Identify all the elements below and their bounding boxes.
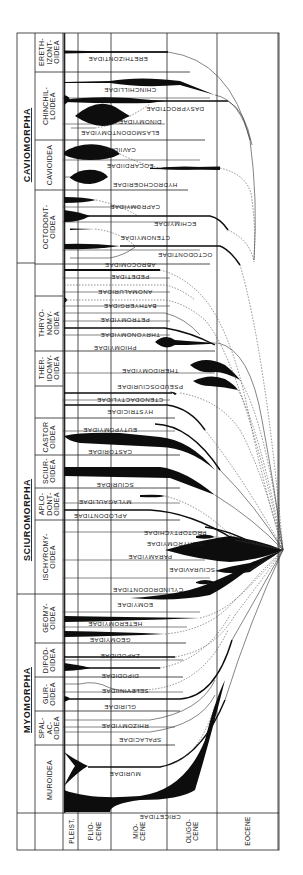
superfamily-label: CAVIOIDEA — [46, 145, 53, 185]
superfamily-label: OIDEA — [53, 492, 60, 515]
superfamily-label: CHINCHIL- — [42, 87, 49, 125]
family-label-seleviniidae: SELEVINIIDAE — [101, 688, 148, 695]
superfamily-label: THRYO- — [38, 308, 45, 337]
superfamily-label: ERETH- — [38, 38, 45, 66]
family-label-bathyergidae: BATHYERGIDAE — [104, 303, 157, 310]
family-label-rhizomyidae: RHIZOMYIDAE — [101, 723, 148, 730]
epoch-label: EOCENE — [244, 816, 251, 846]
epoch-label: CENE — [139, 821, 146, 841]
family-label-dasyproctidae: DASYPROCTIDAE — [146, 106, 204, 113]
family-label-abrocomidae: ABROCOMIDAE — [105, 262, 156, 269]
family-label-eomyidae: EOMYIDAE — [117, 602, 153, 609]
family-label-aplodontidae: APLODONTIDAE — [73, 513, 126, 520]
superfamily-label: CASTOR — [42, 422, 49, 453]
superfamily-label: OIDEA — [49, 606, 56, 629]
epoch-label: PLIO- — [87, 822, 94, 840]
superfamily-label: IDOMY- — [46, 354, 53, 381]
superfamily-label: APLO- — [38, 492, 45, 515]
suborder-caviomorpha: CAVIOMORPHA — [22, 108, 32, 182]
superfamily-label: OIDEA — [49, 648, 56, 671]
family-label-dipodidae: DIPODIDAE — [101, 673, 139, 680]
family-label-pedetidae: PEDETIDAE — [111, 274, 150, 281]
family-label-gliridae: GLIRIDAE — [104, 704, 136, 711]
superfamily-label: OIDEA — [49, 425, 56, 448]
family-label-theridomyidae: THERIDOMYIDAE — [122, 368, 179, 375]
family-label-erethizontidae: ERETHIZONTIDAE — [88, 56, 148, 63]
superfamily-label: OIDEA — [53, 311, 60, 334]
family-label-hydrochoeridae: HYDROCHOERIDAE — [113, 182, 178, 189]
superfamily-label: SCIUR- — [42, 458, 49, 484]
family-label-zapodidae: ZAPODIDAE — [100, 653, 139, 660]
superfamily-label: IZONT- — [46, 39, 53, 64]
family-label-mylagaulidae: MYLAGAULIDAE — [79, 499, 132, 506]
family-label-thryonomyidae: THRYONOMYIDAE — [100, 332, 160, 339]
superfamily-label: MUROIDEA — [46, 760, 53, 800]
family-label-sciuridae: SCIURIDAE — [96, 482, 133, 489]
superfamily-label: OIDEA — [49, 545, 56, 568]
family-label-sciuravidae: SCIURAVIDAE — [169, 567, 215, 574]
family-label-ischyromyidae: ISCHYROMYIDAE — [146, 541, 203, 548]
epoch-label: PLEIST. — [68, 818, 75, 844]
superfamily-label: OCTODONT- — [42, 204, 49, 249]
family-label-chinchillidae: CHINCHILLIDAE — [104, 87, 156, 94]
superfamily-label: THER- — [38, 356, 45, 379]
family-label-ctenomyidae: CTENOMYIDAE — [120, 235, 170, 242]
epoch-label: CENE — [95, 821, 102, 841]
superfamily-label: OIDEA — [49, 215, 56, 238]
superfamily-label: DONT- — [46, 492, 53, 516]
superfamily-label: AC- — [46, 721, 53, 734]
superfamily-label: DIPOD- — [42, 646, 49, 673]
superfamily-label: OIDEA — [53, 716, 60, 739]
family-label-cricetidae: CRICETIDAE — [139, 814, 180, 821]
family-label-octodontidae: OCTODONTIDAE — [158, 252, 213, 259]
family-label-echimyidae: ECHIMYIDAE — [154, 221, 197, 228]
family-label-hystricidae: HYSTRICIDAE — [107, 409, 153, 416]
superfamily-label: SPAL- — [38, 717, 45, 739]
family-label-protoptychidae: PROTOPTYCHIDAE — [144, 530, 207, 537]
suborder-myomorpha: MYOMORPHA — [22, 667, 32, 733]
superfamily-label: OIDEA — [53, 356, 60, 379]
superfamily-label: OIDEA — [53, 40, 60, 63]
family-label-dinomyidae: DINOMYIDAE — [118, 119, 161, 126]
family-label-phiomyidae: PHIOMYIDAE — [94, 345, 137, 352]
superfamily-label: ISCHYROMY- — [42, 533, 49, 580]
family-label-pseudosciuridae: PSEUDOSCIURIDAE — [117, 384, 183, 391]
family-label-elasmodontomyidae: ELASMODONTOMYIDAE — [81, 130, 160, 137]
suborder-labels: CAVIOMORPHA SCIUROMORPHA MYOMORPHA — [22, 108, 32, 733]
family-label-anomaluridae: ANOMALURIDAE — [98, 289, 152, 296]
superfamily-labels: ERETH-IZONT-OIDEACHINCHIL-LOIDEACAVIOIDE… — [38, 38, 60, 800]
family-label-cylindrodontidae: CYLINDRODONTIDAE — [113, 587, 183, 594]
suborder-sciuromorpha: SCIUROMORPHA — [22, 479, 32, 561]
family-label-heteromyidae: HETEROMYIDAE — [88, 621, 142, 628]
family-label-geomyidae: GEOMYIDAE — [89, 637, 130, 644]
family-label-spalacidae: SPALACIDAE — [119, 737, 161, 744]
family-label-petromyidae: PETROMYIDAE — [100, 317, 149, 324]
family-label-eocardiidae: EOCARDIIDAE — [106, 163, 153, 170]
family-label-caviidae: CAVIIDAE — [104, 147, 136, 154]
superfamily-label: OIDEA — [49, 459, 56, 482]
family-label-capromyidae: CAPROMYIDAE — [110, 204, 160, 211]
epoch-label: MIO- — [132, 823, 139, 839]
superfamily-label: LOIDEA — [49, 92, 56, 120]
epoch-label: CENE — [192, 821, 199, 841]
root-curves — [168, 52, 283, 700]
family-label-ctenodactylidae: CTENODACTYLIDAE — [97, 397, 164, 404]
superfamily-label: GLIR- — [42, 684, 49, 705]
superfamily-label: OIDEA — [49, 682, 56, 705]
superfamily-label: NOMY- — [46, 311, 53, 336]
family-label-eutypomyidae: EUTYPOMYIDAE — [83, 427, 137, 434]
superfamily-label: GEOMY- — [42, 603, 49, 633]
rodent-phylogeny-diagram: CAVIOMORPHA SCIUROMORPHA MYOMORPHA ERETH… — [0, 0, 303, 875]
family-label-paramyidae: PARAMYIDAE — [128, 554, 172, 561]
epoch-label: OLIGO- — [185, 819, 192, 844]
family-label-castoridae: CASTORIDAE — [88, 449, 132, 456]
family-label-muridae: MURIDAE — [109, 771, 140, 778]
